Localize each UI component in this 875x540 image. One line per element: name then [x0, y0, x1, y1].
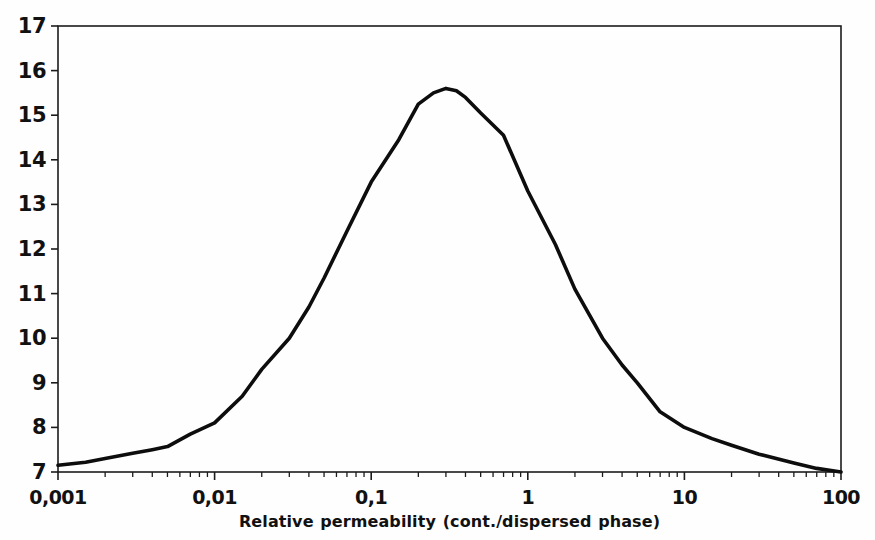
x-tick-label: 0,1	[355, 486, 387, 508]
y-tick-label: 8	[32, 415, 46, 439]
y-tick-label: 10	[18, 326, 46, 350]
y-tick-label: 12	[18, 237, 46, 261]
x-tick-label: 0,001	[29, 486, 87, 508]
plot-border	[58, 26, 841, 472]
x-tick-label: 100	[822, 486, 860, 508]
data-curve	[58, 88, 841, 472]
x-tick-label: 0,01	[192, 486, 237, 508]
y-tick-label: 9	[32, 371, 46, 395]
y-tick-label: 16	[18, 59, 46, 83]
y-tick-label: 11	[18, 282, 46, 306]
chart-figure: 78910111213141516170,0010,010,1110100 Re…	[0, 0, 875, 540]
x-axis-title: Relative permeability (cont./dispersed p…	[58, 512, 841, 531]
line-chart: 78910111213141516170,0010,010,1110100	[0, 0, 875, 540]
x-tick-label: 1	[521, 486, 534, 508]
y-tick-label: 7	[32, 460, 46, 484]
y-tick-label: 13	[18, 192, 46, 216]
y-tick-label: 14	[18, 148, 46, 172]
y-tick-label: 17	[18, 14, 46, 38]
x-tick-label: 10	[672, 486, 698, 508]
y-tick-label: 15	[18, 103, 46, 127]
